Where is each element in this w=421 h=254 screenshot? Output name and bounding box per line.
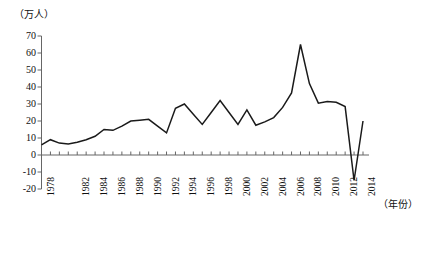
chart-plot-area [0,0,421,254]
x-axis-tick-label: 2014 [367,177,377,196]
x-axis-tick-label: 1988 [135,177,145,196]
x-axis-tick-label: 1994 [188,177,198,196]
x-axis-tick-label: 1996 [206,177,216,196]
x-axis-tick-label: 1978 [46,177,56,196]
x-axis-tick-label: 1992 [171,177,181,196]
x-axis-tick-label: 1998 [224,177,234,196]
y-axis-tick-label: 70 [8,30,36,41]
y-axis-tick-label: 40 [8,81,36,92]
x-axis-tick-label: 1982 [81,177,91,196]
x-axis-tick-label: 1984 [99,177,109,196]
y-axis-tick-label: 60 [8,47,36,58]
x-axis-tick-label: 2004 [278,177,288,196]
x-axis-tick-label: 1986 [117,177,127,196]
x-axis-tick-label: 2012 [349,177,359,196]
x-axis-tick-label: 1990 [153,177,163,196]
y-axis-tick-label: 30 [8,98,36,109]
line-chart: （万人） （年份） 706050403020100-10-20197819821… [0,0,421,254]
x-axis-unit-label: （年份） [378,196,418,211]
data-series-line [42,45,364,181]
x-axis-tick-label: 2000 [242,177,252,196]
y-axis-tick-label: -10 [8,166,36,177]
y-axis-tick-label: 20 [8,115,36,126]
x-axis-tick-label: 2010 [331,177,341,196]
y-axis-tick-label: -20 [8,183,36,194]
x-axis-tick-label: 2008 [313,177,323,196]
x-axis-tick-label: 2006 [296,177,306,196]
y-axis-tick-label: 10 [8,132,36,143]
y-axis-tick-label: 0 [8,149,36,160]
y-axis-tick-label: 50 [8,64,36,75]
x-axis-tick-label: 2002 [260,177,270,196]
